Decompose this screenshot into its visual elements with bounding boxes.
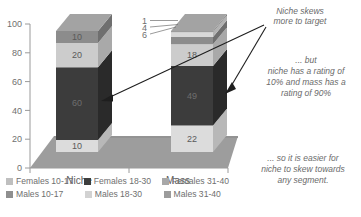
annotation-ratings: ... but niche has a rating of 10% and ma…	[266, 55, 346, 98]
legend-label-males-18-30: Males 18-30	[95, 189, 142, 199]
annotation-easier-to-skew: ... so it is easier for niche to skew to…	[261, 153, 345, 185]
mass-segment-males-31-40-front	[171, 31, 213, 32]
legend-swatch-females-31-40	[162, 178, 169, 185]
anno3-line1: ... so it is easier for	[267, 153, 339, 163]
legend-item-females-18-30[interactable]: Females 18-30	[84, 176, 155, 186]
mass-segment-males-18-30-front	[171, 32, 213, 37]
mass-label-22: 22	[187, 134, 197, 144]
anno1-line1: Niche skews	[276, 6, 324, 16]
mass-segment-males-10-17-front	[171, 37, 213, 44]
bar-mass[interactable]: 22 49 18	[171, 14, 227, 152]
annotation-niche-skews: Niche skews more to target	[274, 6, 328, 26]
legend-label-females-10-17: Females 10-17	[16, 176, 73, 186]
y-tick-label-60: 60	[12, 77, 22, 87]
niche-label-10-top: 10	[72, 32, 82, 42]
mass-label-49: 49	[187, 91, 197, 101]
legend-row-males: Males 10-17 Males 18-30 Males 31-40	[6, 189, 236, 199]
leader-line-4	[150, 25, 178, 28]
legend-label-females-18-30: Females 18-30	[94, 176, 151, 186]
chart-container: 100 80 60 40 20 0 Niche Mass	[0, 0, 361, 217]
anno2-line4: rating of 90%	[281, 88, 332, 98]
legend-label-females-31-40: Females 31-40	[172, 176, 229, 186]
legend-item-females-31-40[interactable]: Females 31-40	[162, 176, 229, 186]
legend-swatch-females-10-17	[6, 178, 13, 185]
legend-row-females: Females 10-17 Females 18-30 Females 31-4…	[6, 176, 236, 186]
anno2-line3: 10% and mass has a	[266, 77, 346, 87]
mass-leader-label-6: 6	[142, 30, 147, 40]
legend-label-males-10-17: Males 10-17	[16, 189, 63, 199]
legend-item-males-10-17[interactable]: Males 10-17	[6, 189, 78, 199]
anno1-line2: more to target	[274, 16, 328, 26]
y-tick-label-0: 0	[17, 163, 22, 173]
y-tick-label-20: 20	[12, 134, 22, 144]
legend-item-females-10-17[interactable]: Females 10-17	[6, 176, 77, 186]
legend-swatch-females-18-30	[84, 178, 91, 185]
y-tick-label-80: 80	[12, 48, 22, 58]
anno3-line3: any segment.	[277, 175, 328, 185]
niche-label-20: 20	[72, 50, 82, 60]
anno2-line1: ... but	[295, 55, 317, 65]
bar-niche[interactable]: 10 60 20 10	[56, 14, 112, 152]
anno2-line2: niche has a rating of	[268, 66, 346, 76]
legend-swatch-males-31-40	[164, 191, 171, 198]
legend-swatch-males-18-30	[85, 191, 92, 198]
legend-item-males-31-40[interactable]: Males 31-40	[164, 189, 229, 199]
niche-label-60: 60	[72, 98, 82, 108]
anno3-line2: niche to skew towards	[261, 164, 345, 174]
niche-label-10-base: 10	[72, 141, 82, 151]
y-tick-label-40: 40	[12, 106, 22, 116]
legend-item-males-18-30[interactable]: Males 18-30	[85, 189, 157, 199]
y-tick-label-100: 100	[7, 19, 22, 29]
arrow-line-to-mass	[230, 27, 266, 88]
legend-label-males-31-40: Males 31-40	[174, 189, 221, 199]
legend-swatch-males-10-17	[6, 191, 13, 198]
chart-legend: Females 10-17 Females 18-30 Females 31-4…	[6, 176, 236, 202]
